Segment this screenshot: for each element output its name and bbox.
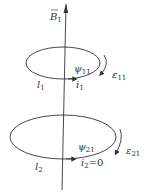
emf-11-label: ε11: [112, 69, 126, 82]
field-label: B1: [49, 11, 62, 24]
coil-diagram: B1 ψ11 ε11 l1 i1 ψ21 ε21 l2 i2=0: [0, 0, 148, 196]
emf-1-arrow-icon: [101, 55, 106, 74]
coil-2: [10, 115, 121, 159]
flux-11-label: ψ11: [74, 63, 91, 76]
coil-1: [26, 47, 106, 79]
emf-21-label: ε21: [126, 145, 140, 158]
length-1-label: l1: [37, 79, 45, 92]
field-axis-line: [62, 4, 66, 190]
field-arrow-icon: [64, 4, 69, 13]
current-2-label: i2=0: [81, 157, 103, 170]
flux-21-label: ψ21: [78, 141, 95, 154]
emf-2-arrow-icon: [116, 129, 121, 153]
current-1-label: i1: [76, 79, 84, 92]
length-2-label: l2: [35, 161, 43, 174]
